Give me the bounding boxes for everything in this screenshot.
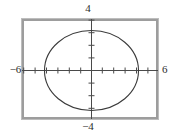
x-max-label: 6	[162, 64, 176, 75]
y-max-label: 4	[0, 3, 176, 14]
plot-area	[21, 18, 159, 120]
graph-screenshot: 4 −4 −6 6	[0, 0, 176, 136]
y-min-label: −4	[0, 121, 176, 132]
x-min-label: −6	[1, 64, 21, 75]
